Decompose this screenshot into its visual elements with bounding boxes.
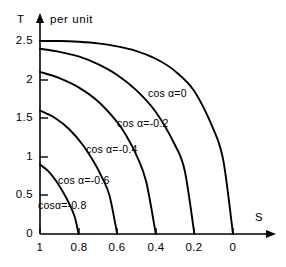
- x-axis-ticks: [40, 228, 233, 234]
- plot-canvas: [0, 0, 286, 267]
- y-axis-unit-label: per unit: [50, 14, 93, 26]
- y-tick-label-0.5: 0.5: [0, 189, 33, 201]
- curve-label-cos-alpha-minus-0.8: cosα=-0.8: [38, 200, 86, 211]
- x-tick-label-0.8: 0.8: [65, 242, 93, 254]
- x-axis-arrow-icon: [266, 230, 276, 238]
- curve-3: [40, 110, 117, 234]
- y-axis-label: T: [17, 14, 24, 26]
- y-axis-ticks: [40, 41, 48, 195]
- y-tick-label-0: 0: [0, 228, 33, 240]
- x-tick-label-0.2: 0.2: [180, 242, 208, 254]
- y-tick-label-1.5: 1.5: [0, 112, 33, 124]
- x-axis-label: S: [255, 212, 263, 224]
- y-tick-label-2.5: 2.5: [0, 35, 33, 47]
- x-tick-label-0.4: 0.4: [142, 242, 170, 254]
- curve-label-cos-alpha-0: cos α=0: [148, 88, 187, 99]
- x-tick-label-0.6: 0.6: [103, 242, 131, 254]
- y-axis-arrow-icon: [36, 13, 44, 23]
- y-tick-label-1: 1: [0, 151, 33, 163]
- curve-label-cos-alpha-minus-0.2: cos α=-0.2: [117, 118, 169, 129]
- x-tick-label-1: 1: [26, 242, 54, 254]
- curve-label-cos-alpha-minus-0.4: cos α=-0.4: [86, 144, 138, 155]
- curve-label-cos-alpha-minus-0.6: cos α=-0.6: [58, 175, 110, 186]
- chart-figure: T per unit S 2.5 2 1.5 1 0.5 0 1 0.8 0.6…: [0, 0, 286, 267]
- y-tick-label-2: 2: [0, 74, 33, 86]
- x-tick-label-0: 0: [219, 242, 247, 254]
